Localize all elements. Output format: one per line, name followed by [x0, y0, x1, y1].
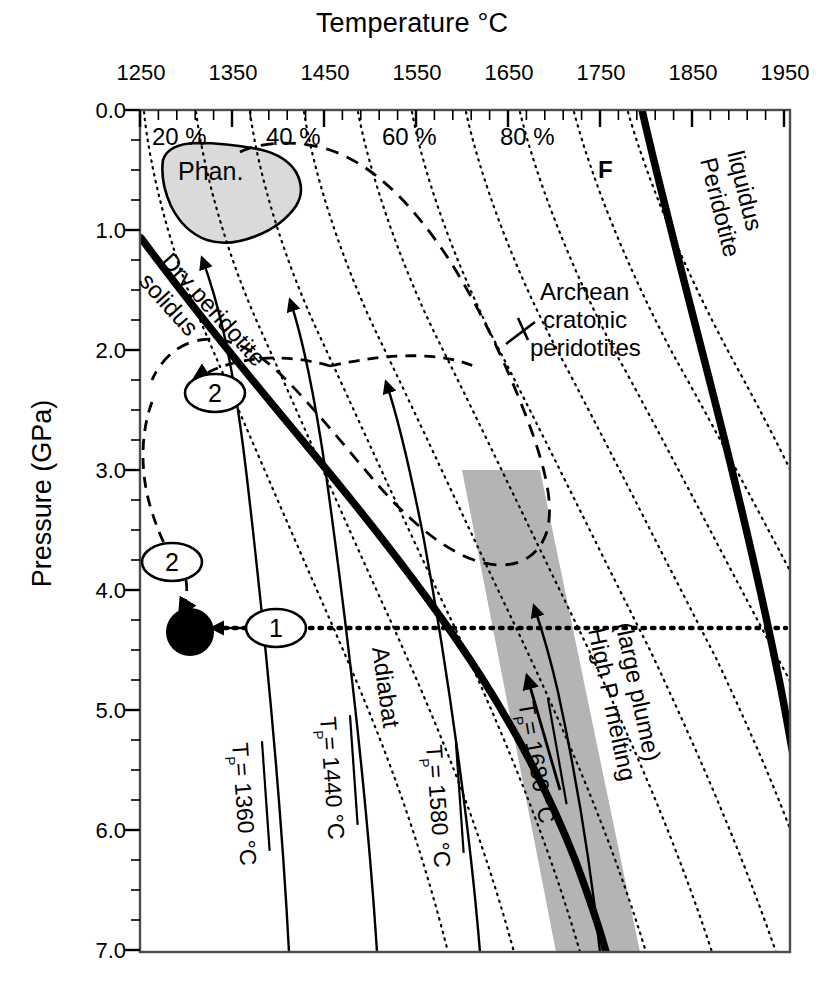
svg-text:P: P	[310, 730, 327, 740]
svg-text:P: P	[222, 756, 239, 766]
x-tick-label: 1850	[648, 60, 738, 86]
x-tick-label: 1650	[464, 60, 554, 86]
y-tick-label: 7.0	[30, 938, 126, 964]
y-tick-label: 3.0	[30, 458, 126, 484]
chart-title: Temperature °C	[0, 8, 824, 39]
x-tick-label: 1350	[188, 60, 278, 86]
x-tick-label: 1550	[372, 60, 462, 86]
label-melt-20: 20 %	[152, 123, 207, 150]
y-tick-label: 0.0	[30, 98, 126, 124]
label-tp-1360: T = 1360 °C P	[221, 741, 270, 867]
svg-text:2: 2	[208, 379, 222, 407]
svg-text:Adiabat: Adiabat	[367, 645, 405, 730]
label-tp-1580: T = 1580 °C P	[415, 743, 464, 869]
x-tick-label: 1450	[280, 60, 370, 86]
x-tick-label: 1250	[96, 60, 186, 86]
label-phan: Phan.	[178, 157, 243, 185]
svg-text:1: 1	[269, 614, 283, 642]
y-axis-minor-ticks	[131, 140, 140, 920]
svg-text:cratonic: cratonic	[543, 306, 627, 333]
y-tick-label: 1.0	[30, 218, 126, 244]
label-melt-40: 40 %	[266, 123, 321, 150]
label-adiabat: Adiabat	[367, 645, 405, 730]
label-melt-60: 60 %	[382, 123, 437, 150]
svg-text:2: 2	[165, 548, 179, 576]
svg-text:peridotites: peridotites	[530, 334, 641, 361]
label-melt-80: 80 %	[500, 123, 555, 150]
annotation-circle-2-lower: 2	[142, 543, 202, 581]
annotation-circle-1: 1	[246, 609, 306, 647]
source-dot	[166, 608, 214, 656]
y-tick-label: 2.0	[30, 338, 126, 364]
label-peridotite-liquidus: Peridotite liquidus	[695, 148, 773, 260]
x-axis-major-ticks	[140, 110, 784, 127]
y-tick-label: 5.0	[30, 698, 126, 724]
svg-text:P: P	[416, 758, 433, 768]
x-tick-label: 1750	[556, 60, 646, 86]
label-tp-1440: T = 1440 °C P	[309, 715, 358, 841]
y-tick-label: 6.0	[30, 818, 126, 844]
svg-text:Archean: Archean	[540, 278, 629, 305]
y-tick-label: 4.0	[30, 578, 126, 604]
x-tick-label: 1950	[740, 60, 824, 86]
label-archean-cratonic: Archean cratonic peridotites	[530, 278, 641, 361]
label-melt-F: F	[598, 156, 613, 183]
annotation-circle-2-upper: 2	[185, 374, 245, 412]
